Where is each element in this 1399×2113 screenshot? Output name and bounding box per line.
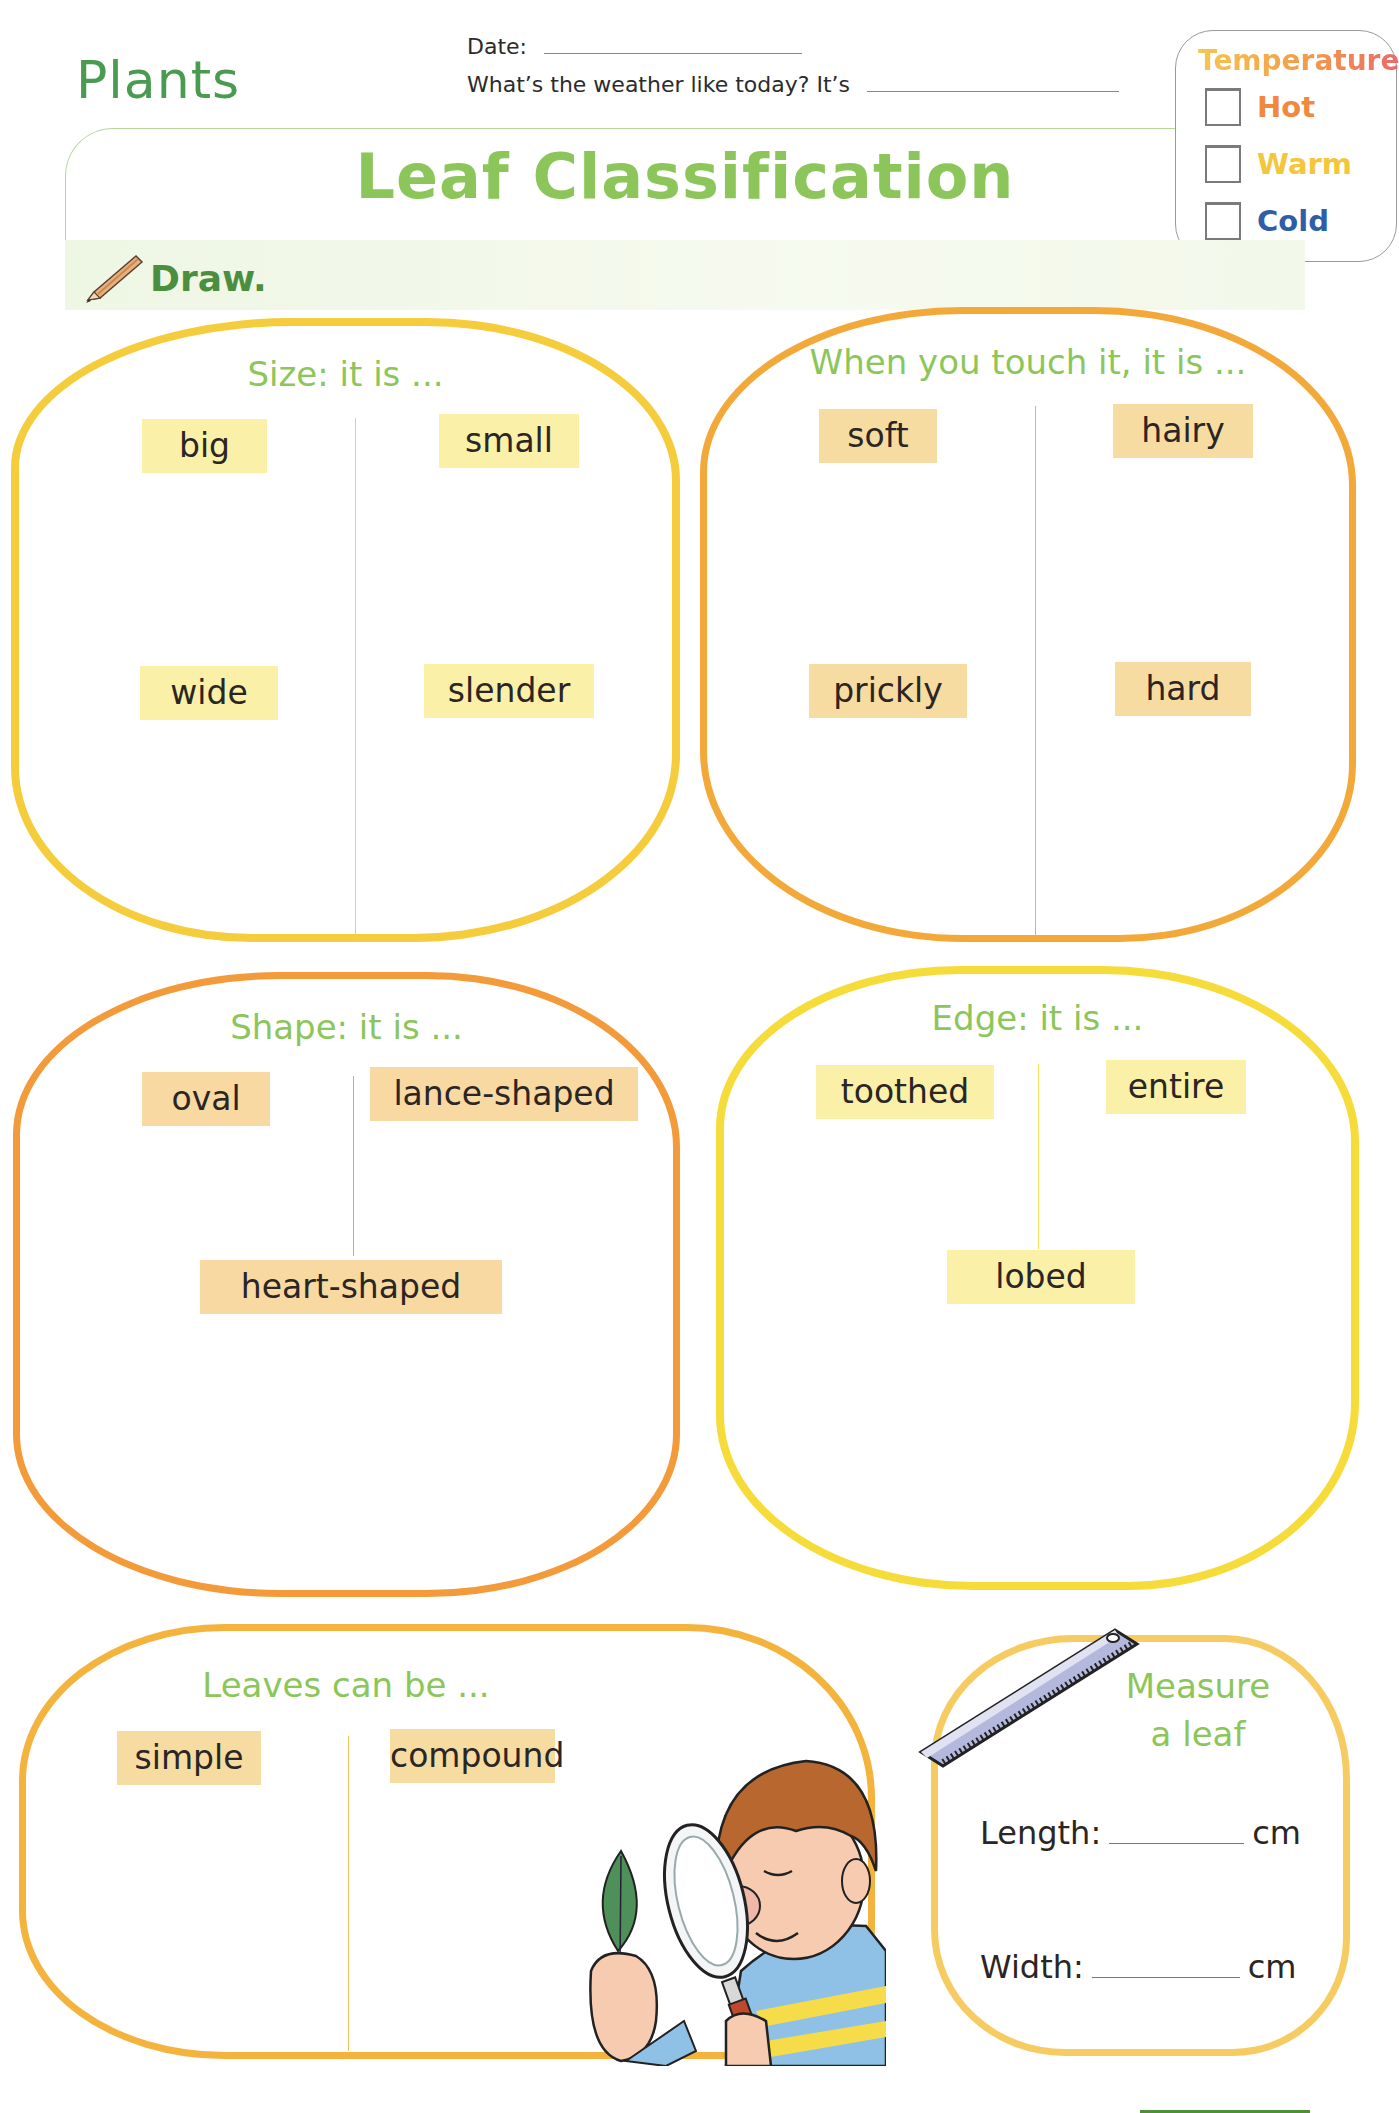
unit-title: Plants	[76, 50, 240, 110]
shape-card-title: Shape: it is ...	[20, 1007, 673, 1047]
length-row: Length:cm	[980, 1814, 1301, 1852]
edge-divider	[1038, 1064, 1039, 1249]
weather-question: What’s the weather like today? It’s	[467, 72, 850, 97]
tag-lance-shaped: lance-shaped	[370, 1067, 638, 1121]
date-label: Date:	[467, 34, 527, 59]
touch-card-title: When you touch it, it is ...	[707, 342, 1349, 382]
shape-card: Shape: it is ... oval lance-shaped heart…	[13, 972, 680, 1597]
temp-option-cold[interactable]: Cold	[1205, 202, 1329, 240]
leaves-divider	[348, 1736, 349, 2051]
temperature-title: Temperature	[1198, 44, 1399, 77]
weather-row: What’s the weather like today? It’s	[467, 72, 1119, 97]
length-label: Length:	[980, 1814, 1101, 1852]
tag-toothed: toothed	[816, 1065, 994, 1119]
date-input-line[interactable]	[544, 52, 802, 54]
temp-option-label: Warm	[1257, 147, 1352, 181]
pencil-icon	[80, 252, 144, 306]
size-divider	[355, 418, 356, 938]
boy-magnifier-illustration	[566, 1721, 886, 2066]
page-title: Leaf Classification	[0, 140, 1370, 213]
checkbox-warm[interactable]	[1205, 145, 1241, 183]
tag-oval: oval	[142, 1072, 270, 1126]
length-input-line[interactable]	[1109, 1842, 1244, 1844]
tag-lobed: lobed	[947, 1250, 1135, 1304]
instruction-label: Draw.	[150, 258, 267, 299]
ruler-icon	[915, 1610, 1145, 1770]
tag-entire: entire	[1106, 1060, 1246, 1114]
size-card-title: Size: it is ...	[19, 354, 672, 394]
tag-prickly: prickly	[809, 664, 967, 718]
tag-simple: simple	[117, 1731, 261, 1785]
weather-input-line[interactable]	[867, 90, 1119, 92]
edge-card: Edge: it is ... toothed entire lobed	[716, 966, 1359, 1590]
leaves-type-card: Leaves can be ... simple compound	[19, 1624, 875, 2059]
width-unit: cm	[1248, 1948, 1297, 1986]
checkbox-cold[interactable]	[1205, 202, 1241, 240]
temp-option-hot[interactable]: Hot	[1205, 88, 1315, 126]
shape-divider	[353, 1076, 354, 1256]
date-row: Date:	[467, 34, 802, 59]
size-card: Size: it is ... big small wide slender	[11, 318, 680, 942]
width-row: Width:cm	[980, 1948, 1297, 1986]
width-input-line[interactable]	[1092, 1976, 1240, 1978]
length-unit: cm	[1252, 1814, 1301, 1852]
tag-soft: soft	[819, 409, 937, 463]
touch-divider	[1035, 406, 1036, 936]
leaves-type-card-title: Leaves can be ...	[26, 1665, 666, 1705]
tag-small: small	[439, 414, 579, 468]
touch-card: When you touch it, it is ... soft hairy …	[700, 307, 1356, 942]
tag-hard: hard	[1115, 662, 1251, 716]
temp-option-label: Hot	[1257, 90, 1315, 124]
tag-compound: compound	[390, 1729, 555, 1783]
temp-option-warm[interactable]: Warm	[1205, 145, 1352, 183]
width-label: Width:	[980, 1948, 1084, 1986]
checkbox-hot[interactable]	[1205, 88, 1241, 126]
temp-option-label: Cold	[1257, 204, 1329, 238]
tag-big: big	[142, 419, 267, 473]
edge-card-title: Edge: it is ...	[724, 998, 1351, 1038]
tag-wide: wide	[140, 666, 278, 720]
tag-slender: slender	[424, 664, 594, 718]
tag-heart-shaped: heart-shaped	[200, 1260, 502, 1314]
tag-hairy: hairy	[1113, 404, 1253, 458]
